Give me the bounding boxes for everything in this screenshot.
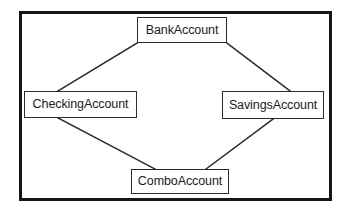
inheritance-line-savingsaccount-comboaccount <box>206 119 273 169</box>
class-box-savingsaccount[interactable]: SavingsAccount <box>222 91 324 119</box>
class-box-label-bankaccount: BankAccount <box>146 24 219 37</box>
class-box-comboaccount[interactable]: ComboAccount <box>131 169 229 194</box>
class-diagram-canvas: BankAccount CheckingAccount SavingsAccou… <box>0 0 349 213</box>
inheritance-line-bankaccount-savingsaccount <box>227 43 290 91</box>
class-box-label-checkingaccount: CheckingAccount <box>33 98 129 111</box>
class-box-label-comboaccount: ComboAccount <box>138 175 222 188</box>
inheritance-line-bankaccount-checkingaccount <box>58 43 137 91</box>
class-box-checkingaccount[interactable]: CheckingAccount <box>24 91 137 118</box>
class-box-bankaccount[interactable]: BankAccount <box>137 17 227 43</box>
class-box-label-savingsaccount: SavingsAccount <box>229 99 317 112</box>
inheritance-line-checkingaccount-comboaccount <box>58 118 155 169</box>
